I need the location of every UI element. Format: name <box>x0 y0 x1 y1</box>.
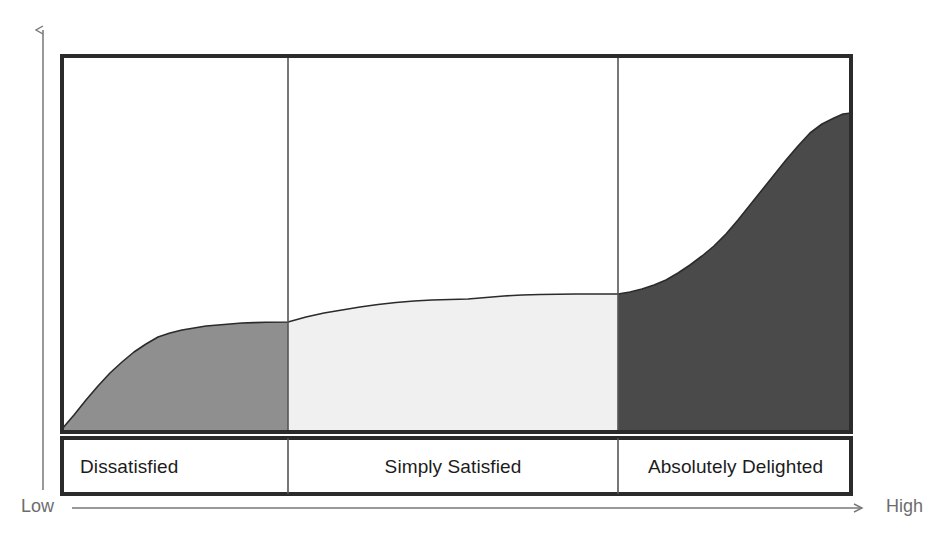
category-label-absolutely-delighted: Absolutely Delighted <box>618 457 853 476</box>
area-segment-simply-satisfied <box>288 294 618 432</box>
category-label-dissatisfied: Dissatisfied <box>80 457 178 476</box>
chart-canvas: Dissatisfied Simply Satisfied Absolutely… <box>0 0 933 546</box>
category-label-simply-satisfied: Simply Satisfied <box>288 457 618 476</box>
x-axis-low-label: Low <box>21 497 54 515</box>
x-axis-high-label: High <box>886 497 923 515</box>
